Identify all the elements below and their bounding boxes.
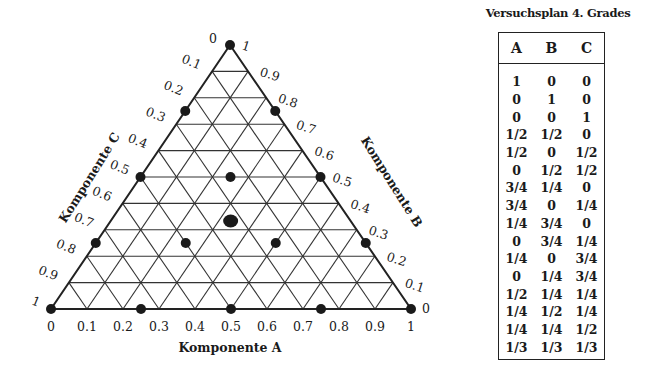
axis-b-tick: 0.8 [276,90,300,110]
table-cell: 0 [534,251,569,266]
axis-a-tick: 1 [407,319,415,334]
table-cell: 1/4 [534,180,569,195]
table-cell: 1/3 [534,340,569,355]
table-cell: 1/2 [499,287,534,302]
table-cell: 1/4 [499,322,534,337]
table-cell: 0 [569,216,604,231]
axis-b-tick: 0.9 [258,64,282,84]
axis-a-tick: 0.7 [293,319,313,334]
design-point [91,238,101,248]
table-cell: 1/3 [499,340,534,355]
table-cell: 0 [569,127,604,142]
axis-c-tick: 0.1 [180,51,204,72]
grid-line [159,124,284,309]
axis-c-tick: 0.5 [108,156,132,177]
design-point [226,172,236,182]
table-cell: 1/2 [534,304,569,319]
table-row: 1/31/31/3 [499,338,604,356]
table-row: 1/201/2 [499,144,604,162]
axis-a-tick: 0.3 [149,319,169,334]
axis-b-tick: 1 [240,38,252,55]
table-cell: 1/3 [569,340,604,355]
axis-b-label: Komponente B [358,134,426,230]
design-table: A B C 1000100011/21/201/201/201/21/23/41… [498,32,605,360]
table-cell: 0 [534,74,569,89]
axis-c-label: Komponente C [55,130,123,226]
axis-a-tick: 0.5 [221,319,241,334]
table-cell: 0 [499,110,534,125]
table-row: 1/41/41/2 [499,321,604,339]
table-cell: 1 [569,110,604,125]
table-cell: 1/2 [569,322,604,337]
table-row: 01/43/4 [499,268,604,286]
table-cell: 0 [499,92,534,107]
table-cell: 1/4 [534,287,569,302]
axis-b-tick: 0.5 [331,170,355,190]
design-point [180,106,190,116]
table-cell: 1/4 [569,287,604,302]
table-row: 03/41/4 [499,232,604,250]
table-cell: 3/4 [569,269,604,284]
design-point [136,172,146,182]
table-cell: 1/4 [569,304,604,319]
table-cell: 0 [534,110,569,125]
table-cell: 0 [499,234,534,249]
header-b: B [534,40,569,56]
table-cell: 1 [534,92,569,107]
header-c: C [569,40,604,56]
table-cell: 1/4 [499,251,534,266]
centroid-point [223,214,238,227]
table-cell: 3/4 [534,216,569,231]
table-row: 1/21/20 [499,126,604,144]
axis-c-tick: 0.4 [126,130,150,151]
axis-a-tick: 0.9 [365,319,385,334]
table-cell: 3/4 [569,251,604,266]
design-point [406,304,416,314]
table-row: 1/403/4 [499,250,604,268]
design-point [316,304,326,314]
grid-line [176,124,303,309]
table-row: 010 [499,91,604,109]
table-cell: 0 [569,92,604,107]
table-cell: 1/4 [534,322,569,337]
table-cell: 1/4 [569,234,604,249]
table-cell: 1/2 [534,163,569,178]
header-a: A [499,40,534,56]
axis-b-tick: 0.2 [385,249,409,269]
ternary-plot: 00.10.20.30.40.50.60.70.80.91 00.10.20.3… [0,0,470,383]
axis-c-tick: 0 [209,31,217,46]
design-point [46,304,56,314]
table-cell: 1/4 [499,304,534,319]
table-cell: 0 [534,198,569,213]
table-row: 3/401/4 [499,197,604,215]
axis-a-tick: 0.1 [77,319,97,334]
design-point [316,172,326,182]
axis-c-tick: 1 [30,293,43,310]
axis-b-tick: 0.1 [403,275,427,295]
axis-b-tick: 0.4 [349,196,373,216]
table-header: A B C [499,33,604,64]
table-cell: 1/2 [499,127,534,142]
table-row: 001 [499,108,604,126]
design-point [361,238,371,248]
grid-line [375,283,393,309]
table-row: 1/41/21/4 [499,303,604,321]
table-row: 01/21/2 [499,161,604,179]
table-cell: 3/4 [499,180,534,195]
table-row: 1/21/41/4 [499,285,604,303]
table-row: 3/41/40 [499,179,604,197]
table-cell: 0 [499,163,534,178]
design-points [46,40,416,314]
grid-line [69,283,87,309]
ternary-grid [69,71,393,309]
axis-a-label: Komponente A [178,340,281,355]
table-cell: 0 [569,180,604,195]
axis-a-tick: 0.8 [329,319,349,334]
table-cell: 1/4 [499,216,534,231]
axis-a-tick: 0.2 [113,319,133,334]
design-point [270,106,280,116]
table-cell: 1/2 [569,145,604,160]
table-cell: 1/2 [534,127,569,142]
table-body: 1000100011/21/201/201/201/21/23/41/403/4… [499,64,604,356]
design-point [225,40,235,50]
